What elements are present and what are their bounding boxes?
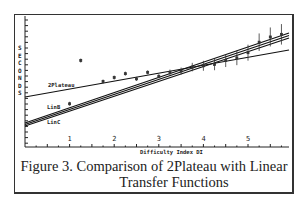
- x-tick-labels: 12345: [68, 135, 251, 143]
- svg-text:1: 1: [68, 135, 72, 143]
- figure-caption: Figure 3. Comparison of 2Plateau with Li…: [14, 158, 294, 190]
- label-2plateau: 2Plateau: [48, 82, 75, 88]
- svg-text:S: S: [18, 44, 22, 51]
- svg-text:S: S: [18, 89, 22, 96]
- svg-text:C: C: [18, 59, 22, 66]
- series-2plateau-line: [25, 50, 289, 97]
- svg-text:3: 3: [157, 135, 161, 143]
- svg-text:D: D: [18, 82, 22, 89]
- caption-line-2: Transfer Functions: [14, 174, 294, 190]
- svg-text:5: 5: [246, 135, 250, 143]
- y-axis-label: SECONDS: [18, 44, 22, 96]
- svg-text:4: 4: [201, 135, 205, 143]
- svg-text:E: E: [18, 52, 22, 59]
- label-linc: LinC: [47, 119, 60, 125]
- series-linc-line: [25, 36, 289, 125]
- label-linb: LinB: [47, 104, 61, 110]
- caption-line-1: Figure 3. Comparison of 2Plateau with Li…: [14, 158, 294, 174]
- series-linb-line: [25, 33, 289, 123]
- svg-text:O: O: [18, 67, 22, 74]
- svg-text:N: N: [18, 74, 22, 81]
- x-axis-label: Difficulty Index DI: [140, 149, 203, 156]
- observed-points: [69, 24, 283, 106]
- svg-text:2: 2: [112, 135, 116, 143]
